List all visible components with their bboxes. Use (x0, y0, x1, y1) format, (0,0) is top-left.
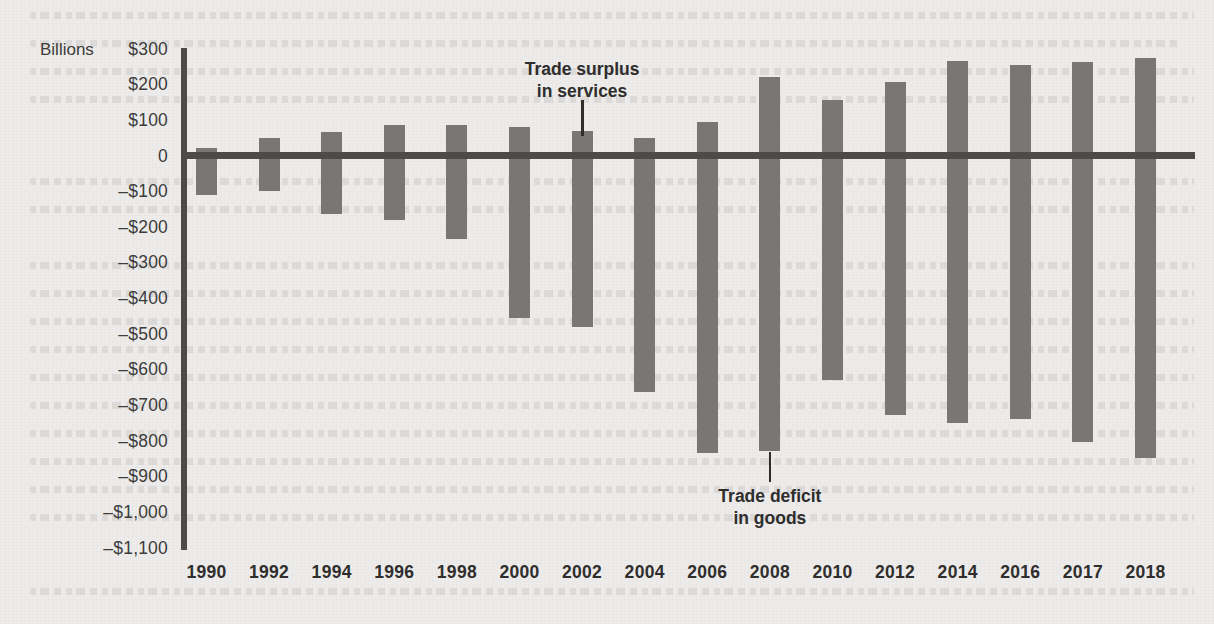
zero-baseline (181, 152, 1195, 159)
x-tick-label-2018: 2018 (1115, 562, 1177, 583)
bar-deficit-2017 (1072, 156, 1093, 443)
bar-deficit-2014 (947, 156, 968, 423)
x-tick-label-2012: 2012 (864, 562, 926, 583)
annotation-trade-surplus-in-services: Trade surplusin services (472, 58, 692, 103)
bar-deficit-2018 (1135, 156, 1156, 459)
x-tick-label-1994: 1994 (301, 562, 363, 583)
bar-surplus-2008 (759, 77, 780, 155)
bar-deficit-2010 (822, 156, 843, 381)
x-tick-label-1992: 1992 (238, 562, 300, 583)
bar-surplus-2006 (697, 122, 718, 156)
bar-surplus-1996 (384, 125, 405, 155)
bar-surplus-2012 (885, 82, 906, 155)
x-tick-label-2016: 2016 (989, 562, 1051, 583)
x-tick-label-2014: 2014 (927, 562, 989, 583)
x-tick-label-1990: 1990 (176, 562, 238, 583)
annotation-line-2: in goods (660, 507, 880, 529)
bar-surplus-2014 (947, 61, 968, 155)
annotation-line-1: Trade surplus (472, 58, 692, 80)
plot-area: Billions $300$200$1000–$100–$200–$300–$4… (0, 0, 1214, 624)
x-tick-label-1998: 1998 (426, 562, 488, 583)
bar-surplus-2016 (1010, 65, 1031, 156)
annotation-leader-line-trade-surplus-in-services (581, 100, 584, 136)
trade-balance-bar-chart: Billions $300$200$1000–$100–$200–$300–$4… (0, 0, 1214, 624)
bar-deficit-2016 (1010, 156, 1031, 420)
bar-deficit-2006 (697, 156, 718, 454)
bar-deficit-1992 (259, 156, 280, 192)
bar-deficit-1990 (196, 156, 217, 195)
x-tick-label-2002: 2002 (551, 562, 613, 583)
x-tick-label-2004: 2004 (614, 562, 676, 583)
x-tick-label-2006: 2006 (676, 562, 738, 583)
bar-deficit-1994 (321, 156, 342, 215)
bar-surplus-2018 (1135, 58, 1156, 156)
x-tick-label-2017: 2017 (1052, 562, 1114, 583)
x-tick-label-2010: 2010 (802, 562, 864, 583)
bar-deficit-2000 (509, 156, 530, 318)
annotation-line-1: Trade deficit (660, 485, 880, 507)
bar-deficit-2002 (572, 156, 593, 327)
annotation-trade-deficit-in-goods: Trade deficitin goods (660, 485, 880, 530)
bar-deficit-1996 (384, 156, 405, 220)
bar-deficit-2012 (885, 156, 906, 415)
x-tick-label-1996: 1996 (363, 562, 425, 583)
bar-deficit-2004 (634, 156, 655, 393)
bar-deficit-2008 (759, 156, 780, 452)
bar-surplus-1998 (446, 125, 467, 155)
x-tick-label-2000: 2000 (489, 562, 551, 583)
bar-surplus-2010 (822, 100, 843, 155)
bar-deficit-1998 (446, 156, 467, 240)
bar-surplus-2017 (1072, 62, 1093, 155)
annotation-leader-line-trade-deficit-in-goods (769, 452, 772, 482)
x-tick-label-2008: 2008 (739, 562, 801, 583)
